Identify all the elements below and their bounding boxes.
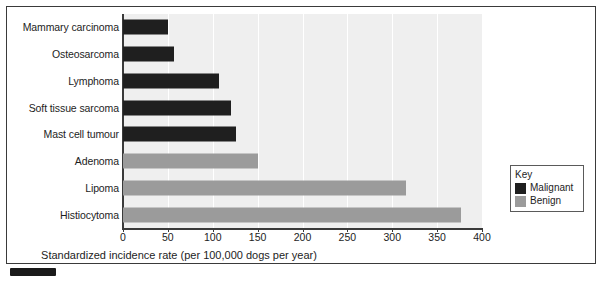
legend-box: Key Malignant Benign [510, 165, 584, 212]
x-tick-label: 250 [339, 231, 357, 243]
x-tick-label: 50 [162, 231, 174, 243]
bar-row: Osteosarcoma [0, 41, 608, 68]
x-tick-label: 0 [120, 231, 126, 243]
x-axis-title: Standardized incidence rate (per 100,000… [0, 249, 608, 261]
legend-swatch-malignant [515, 183, 526, 194]
legend-label-malignant: Malignant [530, 182, 573, 194]
legend-label-benign: Benign [530, 195, 561, 207]
x-tick-label: 100 [204, 231, 222, 243]
bar [123, 100, 231, 115]
category-label: Mast cell tumour [44, 128, 119, 140]
legend-entry-malignant: Malignant [515, 182, 583, 194]
category-label: Mammary carcinoma [23, 21, 119, 33]
bar [123, 180, 406, 195]
bar [123, 47, 174, 62]
x-tick-label: 350 [428, 231, 446, 243]
bar [123, 20, 168, 35]
bar-chart: 050100150200250300350400 Mammary carcino… [0, 0, 608, 284]
bar-row: Lymphoma [0, 68, 608, 95]
bar-row: Mammary carcinoma [0, 14, 608, 41]
x-axis-title-text: Standardized incidence rate (per 100,000… [41, 249, 317, 261]
bar-row: Mast cell tumour [0, 121, 608, 148]
x-tick-label: 400 [473, 231, 491, 243]
x-tick-label: 200 [294, 231, 312, 243]
category-label: Osteosarcoma [52, 48, 119, 60]
bar [123, 207, 461, 222]
category-label: Soft tissue sarcoma [29, 102, 119, 114]
legend-swatch-benign [515, 196, 526, 207]
figure-root: 050100150200250300350400 Mammary carcino… [0, 0, 608, 284]
category-label: Lymphoma [68, 75, 119, 87]
legend-title: Key [515, 169, 583, 181]
legend-entry-benign: Benign [515, 195, 583, 207]
x-tick-label: 300 [383, 231, 401, 243]
bar [123, 127, 236, 142]
bar [123, 73, 219, 88]
category-label: Lipoma [85, 182, 119, 194]
category-label: Adenoma [75, 155, 119, 167]
bar-row: Soft tissue sarcoma [0, 94, 608, 121]
bar [123, 154, 258, 169]
x-tick-label: 150 [249, 231, 267, 243]
category-label: Histiocytoma [60, 209, 119, 221]
